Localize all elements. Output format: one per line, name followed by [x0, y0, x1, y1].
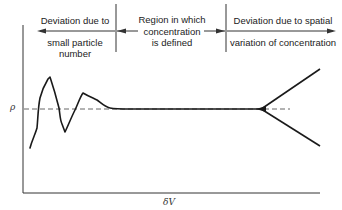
left-region-bottom-label-line1: small particle	[36, 37, 114, 48]
left-region-bottom-label-line2: number	[36, 48, 114, 59]
x-axis-label-delta-v: δV	[163, 197, 175, 207]
right-region-top-label: Deviation due to spatial	[228, 15, 338, 26]
middle-region-label-line2: concentration	[124, 26, 220, 37]
right-region-bottom-label: variation of concentration	[228, 37, 338, 48]
branch-junction	[256, 106, 266, 112]
lower-divergence-branch	[262, 110, 320, 147]
density-curve	[30, 77, 263, 148]
left-region-top-label: Deviation due to	[36, 15, 114, 26]
arrow-right-region	[227, 29, 336, 34]
middle-region-label-line3: is defined	[124, 37, 220, 48]
arrow-left-region	[37, 29, 115, 34]
upper-divergence-branch	[262, 69, 320, 109]
y-axis-label-rho: ρ	[10, 102, 15, 112]
middle-region-label-line1: Region in which	[124, 14, 220, 25]
